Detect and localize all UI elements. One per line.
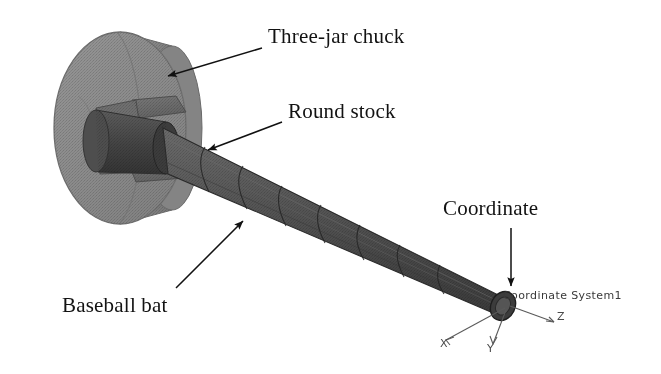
baseball-bat-part [163,128,520,325]
leader-round-stock [208,122,282,150]
bat-highlight-3 [168,163,504,313]
axis-label-z: Z [557,310,565,323]
callout-label-baseball-bat: Baseball bat [62,295,168,316]
callout-label-round-stock: Round stock [288,101,396,122]
leader-baseball-bat [176,221,243,288]
bat-shaft-grain [163,128,505,318]
bat-highlight-1 [166,139,502,303]
callout-label-coordinate: Coordinate [443,198,538,219]
axis-z-line [510,306,554,322]
coordinate-system-name: Coordinate System1 [503,289,622,302]
axis-label-y: Y [487,342,494,355]
bat-highlight-2 [167,152,503,308]
figure-canvas: Three-jar chuck Round stock Baseball bat… [0,0,661,374]
axis-label-x: X [440,337,448,350]
callout-label-three-jar-chuck: Three-jar chuck [268,26,405,47]
